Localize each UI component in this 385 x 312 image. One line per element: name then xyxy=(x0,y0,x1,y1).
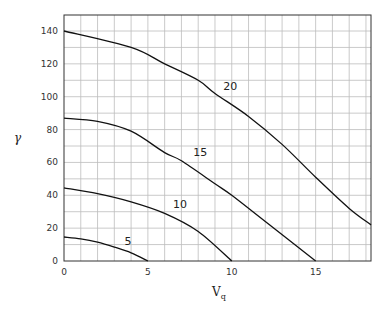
curve-15 xyxy=(64,118,316,261)
y-tick-label: 40 xyxy=(47,190,59,200)
chart-canvas: 020406080100120140 051015 5101520 γ Vq xyxy=(0,0,385,312)
x-tick-label: 5 xyxy=(145,267,151,277)
x-tick-label: 10 xyxy=(226,267,238,277)
y-axis-ticks: 020406080100120140 xyxy=(41,26,58,266)
x-tick-label: 0 xyxy=(61,267,67,277)
y-tick-label: 20 xyxy=(47,223,59,233)
x-axis-title: Vq xyxy=(211,285,226,301)
x-tick-label: 15 xyxy=(310,267,321,277)
curve-labels: 5101520 xyxy=(124,80,237,247)
x-axis-ticks: 051015 xyxy=(61,267,321,277)
plot-frame xyxy=(64,15,371,261)
curve-5 xyxy=(64,237,148,261)
y-tick-label: 140 xyxy=(41,26,58,36)
grid xyxy=(64,15,371,261)
y-tick-label: 80 xyxy=(47,125,59,135)
y-tick-label: 60 xyxy=(47,157,59,167)
y-tick-label: 100 xyxy=(41,92,58,102)
y-axis-title: γ xyxy=(14,131,22,145)
y-tick-label: 0 xyxy=(52,256,58,266)
curve-label-5: 5 xyxy=(124,235,131,248)
curve-label-20: 20 xyxy=(223,80,237,93)
curve-label-15: 15 xyxy=(193,146,207,159)
y-tick-label: 120 xyxy=(41,59,58,69)
curve-label-10: 10 xyxy=(173,198,187,211)
